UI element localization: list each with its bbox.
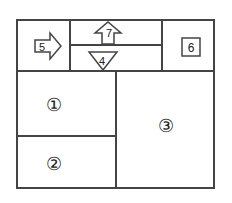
region-1-label: ① <box>46 95 62 115</box>
layout-diagram: 5 7 4 6 ① ② ③ <box>0 0 232 203</box>
region-4: 4 <box>89 52 117 70</box>
region-6-label: 6 <box>188 41 195 55</box>
region-4-label: 4 <box>99 55 105 67</box>
region-5: 5 <box>35 33 61 59</box>
region-3-label: ③ <box>158 116 174 136</box>
region-7: 7 <box>95 22 121 44</box>
region-6: 6 <box>182 38 200 56</box>
region-2-label: ② <box>46 154 62 174</box>
region-7-label: 7 <box>106 27 112 39</box>
region-5-label: 5 <box>39 41 45 53</box>
